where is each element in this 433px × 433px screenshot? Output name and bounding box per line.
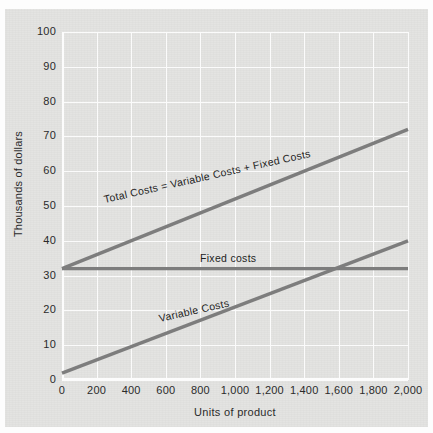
gridline-vertical [408,32,409,380]
y-axis-tick-label: 100 [10,25,56,37]
x-axis-title: Units of product [62,406,408,418]
gridline-horizontal [62,380,408,381]
x-axis-tick-labels: 02004006008001,0001,2001,4001,6001,8002,… [62,384,408,404]
x-axis-tick-label: 2,000 [378,384,433,396]
y-axis-tick-label: 30 [10,269,56,281]
annotation-fixed-costs: Fixed costs [200,252,256,264]
y-axis-tick-label: 10 [10,338,56,350]
page-margin-left [0,0,5,433]
page-margin-right [428,0,433,433]
series-lines [62,32,408,380]
y-axis-tick-label: 20 [10,303,56,315]
y-axis-title: Thousands of dollars [12,104,24,264]
plot-area [62,32,408,380]
y-axis-tick-label: 90 [10,60,56,72]
cost-behavior-chart: 0102030405060708090100 02004006008001,00… [0,0,433,433]
